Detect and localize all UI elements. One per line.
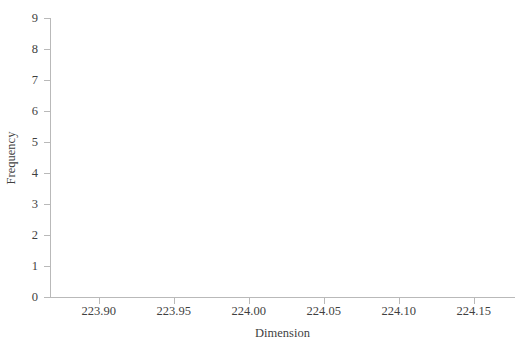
y-tick-mark xyxy=(44,266,50,267)
y-tick-label: 3 xyxy=(10,198,38,210)
y-tick-mark xyxy=(44,173,50,174)
y-tick-label: 2 xyxy=(10,229,38,241)
y-tick-mark xyxy=(44,111,50,112)
y-tick-mark xyxy=(44,297,50,298)
x-axis-line xyxy=(50,297,515,298)
y-tick-label: 8 xyxy=(10,43,38,55)
histogram-chart: 0123456789 223.90223.95224.00224.05224.1… xyxy=(0,0,531,352)
x-tick-label: 223.90 xyxy=(64,305,134,318)
y-tick-label: 9 xyxy=(10,12,38,24)
y-tick-mark xyxy=(44,204,50,205)
y-axis-title: Frequency xyxy=(5,132,18,185)
y-tick-mark xyxy=(44,80,50,81)
y-tick-label: 0 xyxy=(10,291,38,303)
x-tick-label: 224.10 xyxy=(364,305,434,318)
x-tick-label: 223.95 xyxy=(139,305,209,318)
y-tick-label: 6 xyxy=(10,105,38,117)
y-tick-label: 7 xyxy=(10,74,38,86)
x-axis-title: Dimension xyxy=(50,327,515,340)
y-tick-label: 1 xyxy=(10,260,38,272)
x-tick-label: 224.00 xyxy=(214,305,284,318)
x-tick-label: 224.05 xyxy=(289,305,359,318)
y-tick-mark xyxy=(44,235,50,236)
y-tick-mark xyxy=(44,18,50,19)
y-tick-mark xyxy=(44,49,50,50)
plot-area xyxy=(51,18,515,297)
x-tick-label: 224.15 xyxy=(439,305,509,318)
y-tick-mark xyxy=(44,142,50,143)
